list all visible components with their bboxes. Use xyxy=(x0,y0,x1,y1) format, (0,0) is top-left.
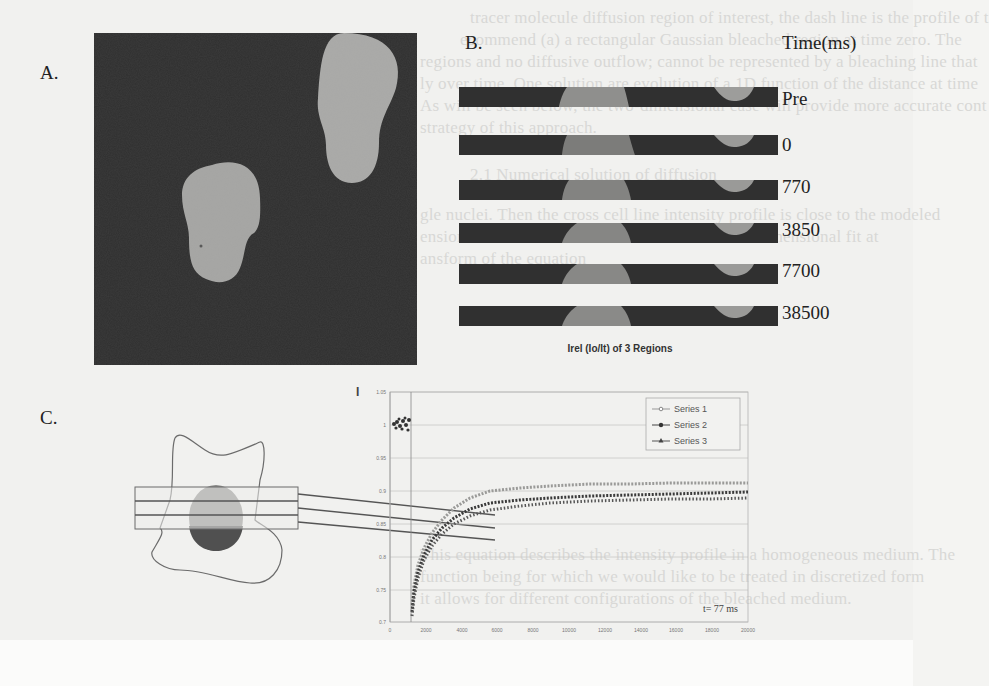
series-2-marker-icon xyxy=(659,423,663,427)
svg-text:0.7: 0.7 xyxy=(379,619,386,625)
kymograph-strip xyxy=(459,180,778,200)
y-tick-labels: 1.05 1 0.95 0.9 0.85 0.8 0.75 0.7 xyxy=(376,389,386,625)
nucleus-dark-region xyxy=(189,526,243,551)
svg-text:0.8: 0.8 xyxy=(379,554,386,560)
legend-series-2: Series 2 xyxy=(674,420,707,430)
strip-time-label: 7700 xyxy=(782,260,820,282)
kymograph-strip xyxy=(459,135,778,155)
strip-profile xyxy=(459,87,778,107)
series-1-marker-icon xyxy=(659,407,663,411)
svg-text:0.9: 0.9 xyxy=(379,488,386,494)
strip-profile xyxy=(459,264,778,284)
strip-time-label: 0 xyxy=(782,134,792,156)
svg-text:14000: 14000 xyxy=(634,627,648,633)
svg-text:16000: 16000 xyxy=(669,627,683,633)
panel-a-label: A. xyxy=(40,62,58,84)
svg-text:0.85: 0.85 xyxy=(376,521,386,527)
x-axis-label: time (ms) xyxy=(546,641,590,652)
svg-text:6000: 6000 xyxy=(491,627,502,633)
bleed-text-line: tracer molecule diffusion region of inte… xyxy=(470,8,989,28)
chart-title: Irel (Io/It) of 3 Regions xyxy=(470,343,770,354)
legend-series-1: Series 1 xyxy=(674,404,707,414)
panel-c-label: C. xyxy=(40,407,57,429)
kymograph-strip xyxy=(459,264,778,284)
svg-text:2000: 2000 xyxy=(420,627,431,633)
time-step-annotation: t= 77 ms xyxy=(703,603,738,614)
recovery-chart: I 1.05 1 0.95 0.9 0.85 0.8 0.75 0.7 0 20… xyxy=(350,380,770,660)
strip-profile xyxy=(459,180,778,200)
kymograph-strip xyxy=(459,87,778,107)
svg-text:12000: 12000 xyxy=(598,627,612,633)
svg-text:8000: 8000 xyxy=(527,627,538,633)
bleed-text-line: regions and no diffusive outflow; cannot… xyxy=(420,52,978,72)
svg-text:1.05: 1.05 xyxy=(376,389,386,395)
svg-text:10000: 10000 xyxy=(562,627,576,633)
series-2-curve xyxy=(412,492,748,612)
strip-time-label: 770 xyxy=(782,176,811,198)
panel-a-micrograph xyxy=(94,33,417,365)
svg-text:0.75: 0.75 xyxy=(376,587,386,593)
strip-time-label: 38500 xyxy=(782,302,830,324)
strip-profile xyxy=(459,135,778,155)
bleed-text-line: gle nuclei. Then the cross cell line int… xyxy=(420,205,940,225)
strip-time-label: Pre xyxy=(782,88,807,110)
strip-profile xyxy=(459,223,778,243)
svg-text:1: 1 xyxy=(383,422,386,428)
bleed-text-line: ecommend (a) a rectangular Gaussian blea… xyxy=(460,30,962,50)
panel-b-label: B. xyxy=(465,32,482,54)
svg-text:18000: 18000 xyxy=(705,627,719,633)
kymograph-strip xyxy=(459,306,778,326)
svg-text:20000: 20000 xyxy=(741,627,755,633)
kymograph-strip xyxy=(459,223,778,243)
x-tick-labels: 0 2000 4000 6000 8000 10000 12000 14000 … xyxy=(389,627,756,633)
svg-text:0.95: 0.95 xyxy=(376,455,386,461)
svg-text:4000: 4000 xyxy=(456,627,467,633)
cell-nuclei-image xyxy=(94,33,417,365)
bleach-region-band xyxy=(135,487,298,529)
y-axis-symbol: I xyxy=(356,385,359,399)
svg-text:0: 0 xyxy=(389,627,392,633)
time-column-header: Time(ms) xyxy=(782,32,856,54)
strip-time-label: 3850 xyxy=(782,219,820,241)
series-1-curve xyxy=(412,483,748,605)
chart-legend: Series 1 Series 2 Series 3 xyxy=(646,398,740,450)
legend-series-3: Series 3 xyxy=(674,436,707,446)
prebleach-points xyxy=(392,417,411,432)
strip-profile xyxy=(459,306,778,326)
